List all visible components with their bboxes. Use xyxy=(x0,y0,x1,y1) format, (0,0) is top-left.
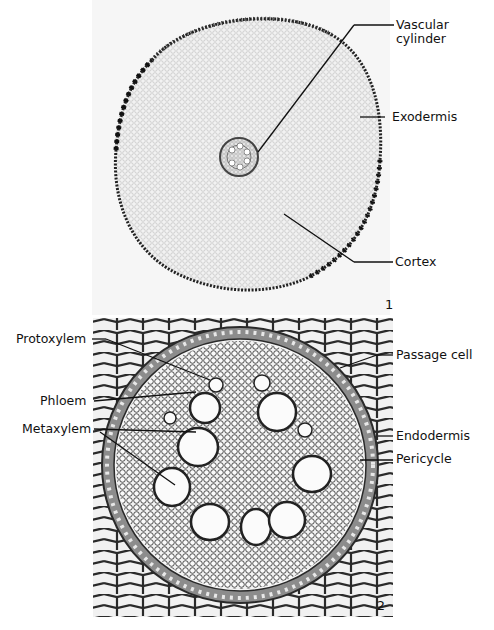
label-metaxylem: Metaxylem xyxy=(22,422,91,436)
label-cortex: Cortex xyxy=(395,255,436,269)
label-endodermis: Endodermis xyxy=(396,429,470,443)
panel-2-micrograph: 2 xyxy=(93,318,393,617)
label-protoxylem: Protoxylem xyxy=(16,332,86,346)
label-vascular-cylinder: Vascular cylinder xyxy=(396,18,449,46)
panel-number-1: 1 xyxy=(385,297,393,312)
vascular-cylinder-graphic xyxy=(220,138,258,176)
label-pericycle: Pericycle xyxy=(396,452,452,466)
root-cross-section-image xyxy=(92,0,390,315)
label-phloem: Phloem xyxy=(40,394,86,408)
vascular-cylinder-detail-image xyxy=(93,318,393,617)
panel-1-micrograph xyxy=(92,0,390,315)
label-vascular-cylinder-line2: cylinder xyxy=(396,32,449,46)
panel-number-2: 2 xyxy=(377,598,385,613)
label-vascular-cylinder-line1: Vascular xyxy=(396,18,449,32)
label-passage-cell: Passage cell xyxy=(396,348,472,362)
label-exodermis: Exodermis xyxy=(392,110,457,124)
